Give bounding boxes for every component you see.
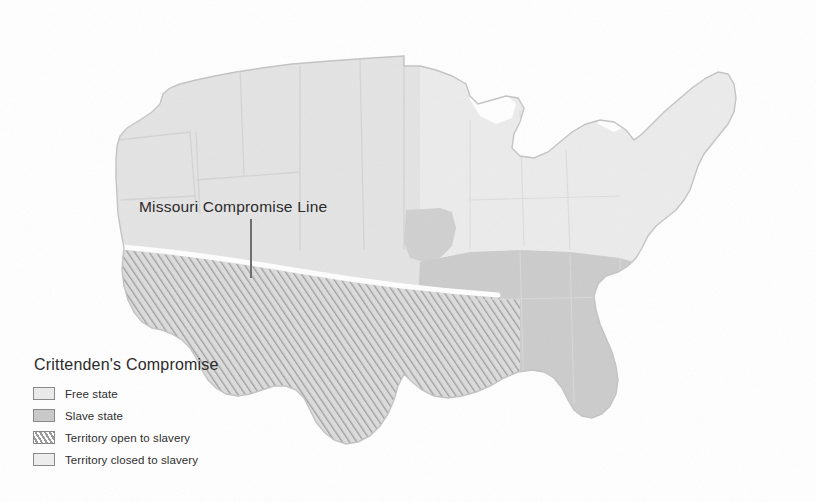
legend-item-slave-state: Slave state <box>33 406 219 425</box>
legend-label-territory-closed: Territory closed to slavery <box>65 454 198 466</box>
missouri-compromise-line-label: Missouri Compromise Line <box>139 198 327 216</box>
territory-closed-swatch <box>33 453 55 466</box>
annotation-leader-line <box>250 219 252 278</box>
legend-label-territory-open: Territory open to slavery <box>65 432 190 444</box>
territory-open-swatch <box>33 431 55 444</box>
legend-item-free-state: Free state <box>33 384 219 403</box>
legend-label-slave-state: Slave state <box>65 410 123 422</box>
map-legend: Crittenden's Compromise Free state Slave… <box>33 356 219 472</box>
legend-item-territory-open: Territory open to slavery <box>33 428 219 447</box>
free-state-swatch <box>33 387 55 400</box>
legend-title: Crittenden's Compromise <box>34 356 219 374</box>
slave-state-swatch <box>33 409 55 422</box>
legend-label-free-state: Free state <box>65 388 118 400</box>
map-canvas: Missouri Compromise Line Crittenden's Co… <box>0 0 816 502</box>
legend-item-territory-closed: Territory closed to slavery <box>33 450 219 469</box>
